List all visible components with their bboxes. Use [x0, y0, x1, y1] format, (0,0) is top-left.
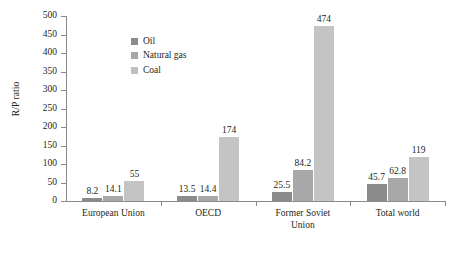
bar-coal-total-world — [409, 157, 429, 201]
bar-value-label: 14.1 — [97, 184, 129, 194]
bar-value-label: 174 — [213, 125, 245, 135]
y-tick-150 — [61, 146, 66, 147]
bar-oil-total-world — [367, 184, 387, 201]
bar-oil-oecd — [177, 196, 197, 201]
bar-value-label: 55 — [118, 169, 150, 179]
category-label-oecd: OECD — [161, 208, 256, 220]
bar-natural-gas-european-union — [103, 196, 123, 201]
bar-value-label: 62.8 — [382, 166, 414, 176]
y-tick-label-250: 250 — [13, 104, 57, 114]
legend-label-coal: Coal — [143, 66, 161, 76]
category-label-line: Union — [256, 220, 351, 232]
x-axis-separator — [350, 201, 351, 206]
legend-swatch-icon-coal — [131, 67, 138, 74]
bar-value-label: 474 — [308, 14, 340, 24]
category-label-line: European Union — [66, 208, 161, 220]
y-tick-50 — [61, 183, 66, 184]
bar-oil-european-union — [82, 198, 102, 201]
y-tick-250 — [61, 109, 66, 110]
y-tick-450 — [61, 35, 66, 36]
category-label-european-union: European Union — [66, 208, 161, 220]
bar-value-label: 25.5 — [266, 180, 298, 190]
x-axis-separator — [161, 201, 162, 206]
y-tick-label-0: 0 — [13, 196, 57, 206]
bar-value-label: 119 — [403, 145, 435, 155]
bar-natural-gas-oecd — [198, 196, 218, 201]
bar-value-label: 14.4 — [192, 184, 224, 194]
y-tick-500 — [61, 16, 66, 17]
legend-label-oil: Oil — [143, 37, 155, 47]
legend-swatch-icon-oil — [131, 38, 138, 45]
category-label-former-soviet-union: Former SovietUnion — [256, 208, 351, 231]
y-tick-0 — [61, 201, 66, 202]
legend-label-natural-gas: Natural gas — [143, 51, 187, 61]
bar-coal-former-soviet-union — [314, 26, 334, 201]
y-tick-400 — [61, 53, 66, 54]
y-tick-200 — [61, 127, 66, 128]
y-tick-label-200: 200 — [13, 122, 57, 132]
legend-item-oil: Oil — [131, 34, 187, 49]
legend: Oil Natural gas Coal — [131, 34, 187, 78]
bar-value-label: 84.2 — [287, 158, 319, 168]
y-tick-label-450: 450 — [13, 30, 57, 40]
y-tick-label-300: 300 — [13, 85, 57, 95]
y-tick-350 — [61, 72, 66, 73]
legend-swatch-icon-natural-gas — [131, 52, 138, 59]
x-axis-end-tick — [445, 201, 446, 206]
x-axis-separator — [256, 201, 257, 206]
category-label-total-world: Total world — [350, 208, 445, 220]
chart-figure: R/P ratio 050100150200250300350400450500… — [0, 0, 476, 256]
category-label-line: Total world — [350, 208, 445, 220]
y-tick-label-100: 100 — [13, 159, 57, 169]
y-tick-label-500: 500 — [13, 11, 57, 21]
y-tick-label-150: 150 — [13, 141, 57, 151]
y-tick-label-400: 400 — [13, 48, 57, 58]
legend-item-coal: Coal — [131, 63, 187, 78]
category-label-line: Former Soviet — [256, 208, 351, 220]
y-axis-line — [66, 16, 67, 201]
bar-oil-former-soviet-union — [272, 192, 292, 201]
y-tick-label-350: 350 — [13, 67, 57, 77]
y-tick-100 — [61, 164, 66, 165]
y-tick-300 — [61, 90, 66, 91]
y-tick-label-50: 50 — [13, 178, 57, 188]
legend-item-natural-gas: Natural gas — [131, 49, 187, 64]
category-label-line: OECD — [161, 208, 256, 220]
